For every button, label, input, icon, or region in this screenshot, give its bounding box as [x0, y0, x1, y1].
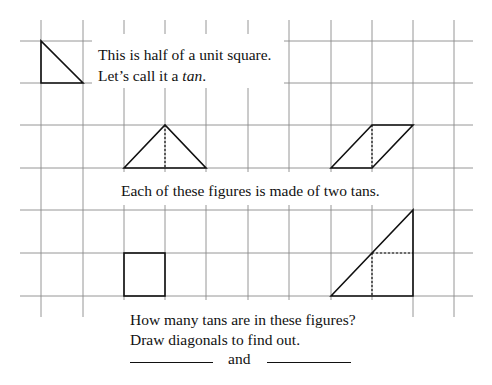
- intro-line-2-prefix: Let’s call it a: [98, 67, 182, 84]
- intro-line-2: Let’s call it a tan.: [98, 66, 206, 86]
- answer-blank-2[interactable]: [267, 362, 351, 363]
- intro-line-2-suffix: .: [202, 67, 206, 84]
- intro-line-1: This is half of a unit square.: [98, 45, 271, 65]
- worksheet: This is half of a unit square. Let’s cal…: [0, 0, 492, 385]
- and-connector: and: [228, 349, 250, 369]
- tan-figure: [41, 41, 83, 83]
- tan-term: tan: [182, 67, 202, 84]
- question-line-1: How many tans are in these figures?: [130, 310, 356, 330]
- middle-caption: Each of these figures is made of two tan…: [121, 181, 380, 201]
- question-line-2: Draw diagonals to find out.: [130, 330, 300, 350]
- square-figure[interactable]: [124, 253, 165, 296]
- answer-blank-1[interactable]: [130, 362, 213, 363]
